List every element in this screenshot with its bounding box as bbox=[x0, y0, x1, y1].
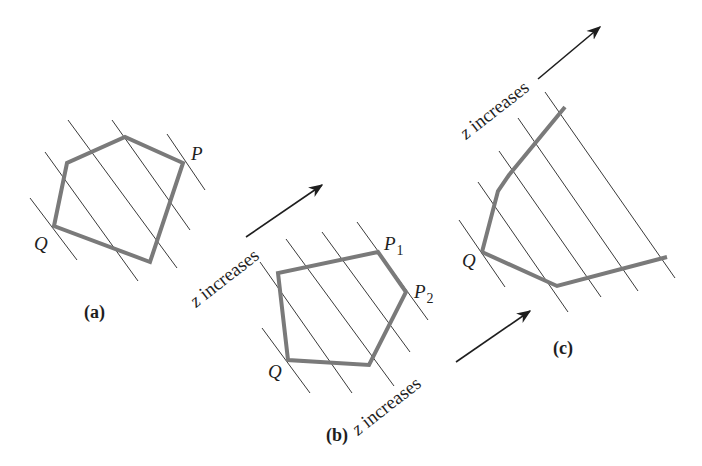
z-increases-extra-label: z increases bbox=[347, 372, 425, 440]
level-line bbox=[478, 182, 568, 312]
panel-b-diagram: P1P2Qz increases bbox=[185, 185, 434, 393]
level-line bbox=[499, 151, 601, 297]
panel-b-caption: (b) bbox=[326, 425, 348, 446]
level-line bbox=[45, 152, 138, 281]
lp-figure: PQ P1P2Qz increases Qz increases z incre… bbox=[0, 0, 702, 466]
vertex-label-P1: P1 bbox=[383, 233, 404, 258]
panel-a-caption: (a) bbox=[84, 302, 105, 323]
panel-a-diagram: PQ bbox=[30, 120, 205, 281]
z-increases-arrow-b: z increases bbox=[347, 311, 530, 440]
z-increases-c-label: z increases bbox=[455, 76, 533, 144]
vertex-label-Q: Q bbox=[268, 361, 282, 382]
vertex-label-Q: Q bbox=[462, 250, 476, 271]
vertex-label-P: P bbox=[190, 143, 203, 164]
z-increases-extra-arrow-icon bbox=[456, 311, 530, 362]
panel-c-diagram: Qz increases bbox=[455, 27, 675, 312]
feasible-region-boundary bbox=[482, 252, 667, 286]
feasible-region-boundary bbox=[54, 137, 183, 262]
feasible-region-boundary bbox=[278, 252, 406, 365]
z-increases-c-arrow-icon bbox=[538, 27, 600, 79]
z-increases-b-label: z increases bbox=[185, 244, 263, 312]
panel-c-caption: (c) bbox=[553, 338, 573, 359]
z-increases-b-arrow-icon bbox=[246, 185, 322, 237]
vertex-label-Q: Q bbox=[34, 233, 48, 254]
figure-svg: PQ P1P2Qz increases Qz increases z incre… bbox=[0, 0, 702, 466]
feasible-region-boundary bbox=[482, 107, 565, 252]
vertex-label-P2: P2 bbox=[413, 281, 434, 306]
level-line bbox=[68, 120, 177, 268]
